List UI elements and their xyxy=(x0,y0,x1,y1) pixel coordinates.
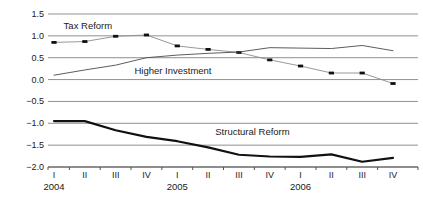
series-line-tax-reform xyxy=(54,35,393,84)
series-marker-tax-reform xyxy=(329,72,334,75)
x-axis-quarter-label: III xyxy=(112,170,120,180)
y-axis-tick-label: 1.0 xyxy=(31,31,44,41)
x-axis-year-label: 2006 xyxy=(290,181,311,192)
series-marker-tax-reform xyxy=(390,82,395,85)
series-marker-tax-reform xyxy=(144,34,149,37)
series-marker-tax-reform xyxy=(113,35,118,38)
series-marker-tax-reform xyxy=(267,59,272,62)
series-label-higher-investment: Higher Investment xyxy=(134,65,211,76)
x-axis-quarter-label: IV xyxy=(265,170,274,180)
y-axis-tick-label: −0.5 xyxy=(26,96,44,106)
series-marker-tax-reform xyxy=(175,45,180,48)
y-axis-tick-label: −1.5 xyxy=(26,140,44,150)
series-marker-tax-reform xyxy=(206,48,211,51)
x-axis-quarter-label: III xyxy=(235,170,243,180)
series-line-higher-investment xyxy=(54,45,393,75)
series-label-tax-reform: Tax Reform xyxy=(64,20,113,31)
x-axis-quarter-label: I xyxy=(53,170,56,180)
y-axis-tick-label: −2.0 xyxy=(26,162,44,172)
line-chart-figure: 1.51.00.50.0−0.5−1.0−1.5−2.0IIIIIIIVIIII… xyxy=(0,0,423,205)
series-marker-tax-reform xyxy=(51,41,56,44)
x-axis-quarter-label: II xyxy=(329,170,334,180)
x-axis-quarter-label: II xyxy=(82,170,87,180)
y-axis-tick-label: 0.5 xyxy=(31,53,44,63)
y-axis-tick-label: −1.0 xyxy=(26,118,44,128)
x-axis-quarter-label: I xyxy=(176,170,179,180)
series-marker-tax-reform xyxy=(298,65,303,68)
x-axis-quarter-label: I xyxy=(299,170,302,180)
y-axis-tick-label: 1.5 xyxy=(31,9,44,19)
series-marker-tax-reform xyxy=(82,40,87,43)
x-axis-quarter-label: IV xyxy=(142,170,151,180)
series-label-structural-reform: Structural Reform xyxy=(215,126,290,137)
x-axis-quarter-label: II xyxy=(206,170,211,180)
x-axis-year-label: 2004 xyxy=(43,181,64,192)
x-axis-year-label: 2005 xyxy=(167,181,188,192)
series-marker-tax-reform xyxy=(360,72,365,75)
line-chart-canvas: 1.51.00.50.0−0.5−1.0−1.5−2.0IIIIIIIVIIII… xyxy=(0,0,423,205)
x-axis-quarter-label: IV xyxy=(389,170,398,180)
x-axis-quarter-label: III xyxy=(358,170,366,180)
y-axis-tick-label: 0.0 xyxy=(31,75,44,85)
